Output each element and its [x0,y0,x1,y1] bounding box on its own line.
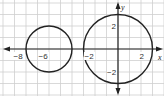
x-tick-label-neg8: −8 [14,52,24,61]
y-axis-down-arrow-icon [116,88,121,95]
coordinate-graph: −8 −6 −2 2 x 2 −2 y [0,0,164,96]
x-axis-left-arrow-icon [3,47,10,52]
x-tick-label-neg6: −6 [39,52,49,61]
x-tick-label-neg2: −2 [85,52,95,61]
grid [0,0,164,96]
x-axis-label: x [157,53,162,62]
x-axis-right-arrow-icon [156,47,163,52]
x-tick-label-2: 2 [140,52,145,61]
y-tick-label-2: 2 [112,22,117,31]
y-tick-label-neg2: −2 [107,68,117,77]
y-axis-label: y [120,3,125,12]
